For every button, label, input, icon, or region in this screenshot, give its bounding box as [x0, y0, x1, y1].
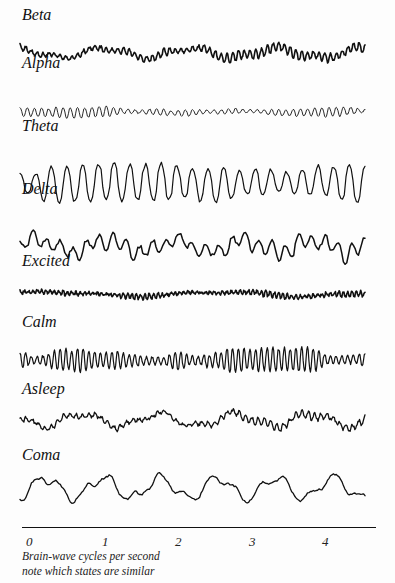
- x-tick-4: 4: [322, 535, 329, 549]
- wave-path: [20, 42, 365, 63]
- brain-wave-figure: Beta Alpha Theta Delta Excited Calm Asle…: [0, 0, 395, 583]
- trace-theta: [20, 160, 365, 206]
- trace-asleep: [20, 405, 365, 435]
- trace-excited: [20, 283, 365, 305]
- trace-alpha: [20, 103, 365, 121]
- trace-coma: [20, 468, 365, 508]
- wave-path: [20, 289, 365, 300]
- wave-path: [20, 106, 365, 119]
- figure-note: note which states are similar: [22, 565, 154, 578]
- wave-path: [20, 409, 365, 432]
- x-tick-3: 3: [249, 535, 256, 549]
- x-tick-1: 1: [102, 535, 109, 549]
- wave-path: [20, 347, 365, 373]
- label-asleep: Asleep: [22, 380, 65, 398]
- wave-path: [20, 162, 365, 203]
- x-tick-0: 0: [26, 535, 33, 549]
- wave-path: [20, 230, 365, 264]
- trace-beta: [20, 38, 365, 68]
- trace-calm: [20, 342, 365, 378]
- x-axis-line: [22, 527, 376, 528]
- label-excited: Excited: [22, 252, 70, 270]
- x-tick-2: 2: [175, 535, 182, 549]
- wave-path: [20, 473, 365, 504]
- label-delta: Delta: [22, 180, 58, 198]
- label-alpha: Alpha: [22, 54, 60, 72]
- label-coma: Coma: [22, 446, 60, 464]
- x-axis-caption: Brain-wave cycles per second: [22, 550, 160, 563]
- label-theta: Theta: [22, 117, 58, 135]
- label-beta: Beta: [22, 6, 51, 24]
- label-calm: Calm: [22, 313, 57, 331]
- trace-delta: [20, 222, 365, 270]
